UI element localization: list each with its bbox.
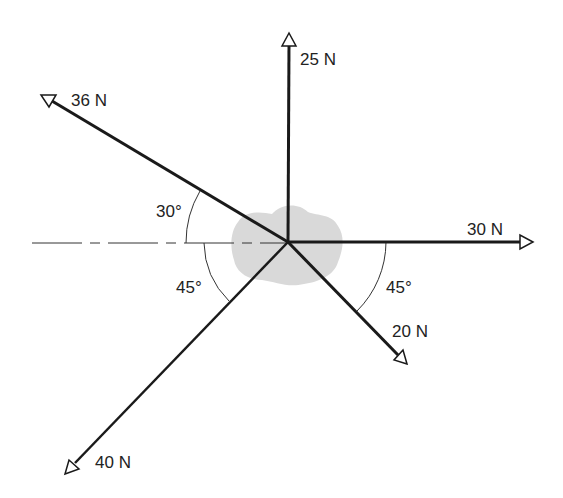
angle-label-45-left: 45°	[176, 279, 202, 296]
force-label-20n: 20 N	[392, 323, 428, 340]
force-label-25n: 25 N	[300, 51, 336, 68]
force-label-40n: 40 N	[95, 454, 131, 471]
arrowhead-25n-icon	[282, 33, 296, 46]
force-label-36n: 36 N	[71, 92, 107, 109]
angle-arc-45-left	[204, 243, 229, 301]
angle-arc-45-right	[357, 242, 386, 311]
force-40n-line	[75, 242, 288, 463]
force-label-30n: 30 N	[467, 221, 503, 238]
arrowhead-30n-icon	[520, 235, 533, 249]
angle-label-45-right: 45°	[386, 279, 412, 296]
force-25n-line	[288, 44, 289, 242]
angle-arc-30	[186, 191, 200, 243]
force-diagram	[0, 0, 563, 498]
angle-label-30: 30°	[156, 203, 182, 220]
force-20n-line	[288, 242, 398, 355]
